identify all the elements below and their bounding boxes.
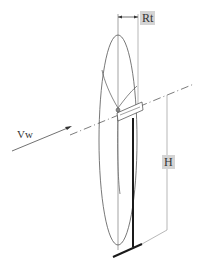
h-ground-line: [142, 230, 167, 244]
nacelle: [117, 102, 143, 121]
blade-upper: [102, 70, 118, 108]
rotor-radius-label: Rt: [140, 11, 155, 25]
wind-speed-label: Vw: [17, 127, 33, 141]
hub-height-label: H: [162, 155, 175, 169]
tower-base: [113, 244, 142, 257]
blade-right: [118, 86, 137, 108]
rt-arrow-left: [118, 16, 122, 19]
hub: [116, 108, 120, 112]
rt-arrow-right: [134, 16, 138, 19]
wind-arrow-head: [65, 126, 72, 130]
